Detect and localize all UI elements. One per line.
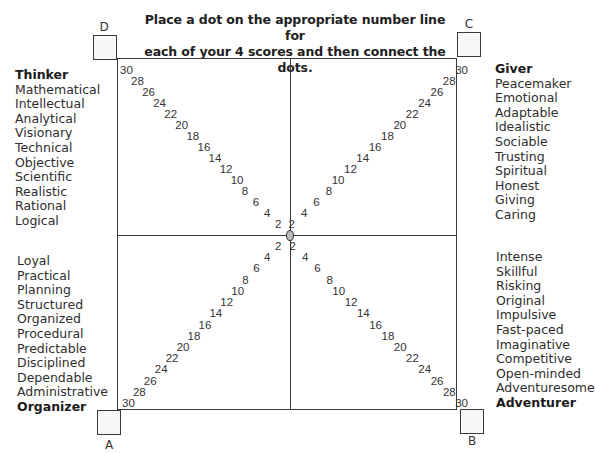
scale-mark-2[interactable]: 2 [275,218,281,230]
organizer-word: Dependable [17,371,108,386]
scale-mark-10[interactable]: 10 [332,285,345,297]
adventurer-word-list: Intense Skillful Risking Original Impuls… [496,250,595,411]
scale-mark-16[interactable]: 16 [199,319,212,331]
adventurer-heading: Adventurer [496,396,595,411]
organizer-word: Planning [17,283,108,298]
scale-mark-12[interactable]: 12 [220,296,233,308]
scale-mark-10[interactable]: 10 [231,174,244,186]
instructions-line-1: Place a dot on the appropriate number li… [140,12,450,44]
scale-mark-4[interactable]: 4 [302,251,308,263]
scale-mark-6[interactable]: 6 [313,196,319,208]
giver-word: Adaptable [495,106,571,121]
corner-box-d[interactable] [93,35,117,60]
scale-mark-14[interactable]: 14 [356,152,369,164]
scale-mark-30[interactable]: 30 [120,64,133,76]
organizer-word: Administrative [17,385,108,400]
scale-mark-18[interactable]: 18 [188,330,201,342]
scale-mark-24[interactable]: 24 [153,97,166,109]
scale-mark-8[interactable]: 8 [326,185,332,197]
adventurer-word: Competitive [496,352,595,367]
corner-box-b[interactable] [460,409,484,434]
scale-mark-28[interactable]: 28 [133,386,146,398]
scale-mark-2[interactable]: 2 [289,218,295,230]
scale-mark-22[interactable]: 22 [406,108,419,120]
scale-mark-16[interactable]: 16 [198,141,211,153]
scale-mark-4[interactable]: 4 [301,207,307,219]
organizer-word: Loyal [17,254,108,269]
scale-mark-6[interactable]: 6 [314,262,320,274]
thinker-word: Technical [15,141,100,156]
adventurer-word: Skillful [496,265,595,280]
corner-label-d: D [97,20,111,34]
adventurer-word: Original [496,294,595,309]
scale-mark-28[interactable]: 28 [443,75,456,87]
adventurer-word: Adventuresome [496,381,595,396]
scale-mark-14[interactable]: 14 [209,307,222,319]
thinker-word-list: Thinker Mathematical Intellectual Analyt… [15,68,100,229]
corner-box-c[interactable] [457,32,481,57]
scale-mark-26[interactable]: 26 [144,375,157,387]
scale-mark-6[interactable]: 6 [253,262,259,274]
scale-mark-14[interactable]: 14 [209,152,222,164]
scale-mark-2[interactable]: 2 [290,240,296,252]
scale-mark-12[interactable]: 12 [220,163,233,175]
scale-mark-10[interactable]: 10 [332,174,345,186]
scale-mark-16[interactable]: 16 [369,319,382,331]
thinker-word: Intellectual [15,97,100,112]
scale-mark-24[interactable]: 24 [418,363,431,375]
scale-mark-8[interactable]: 8 [242,185,248,197]
scale-mark-14[interactable]: 14 [357,307,370,319]
giver-word: Trusting [495,150,571,165]
scale-mark-12[interactable]: 12 [345,296,358,308]
scale-mark-24[interactable]: 24 [155,363,168,375]
organizer-heading: Organizer [17,400,108,415]
scale-mark-20[interactable]: 20 [394,341,407,353]
giver-word: Sociable [495,135,571,150]
scale-mark-18[interactable]: 18 [381,130,394,142]
thinker-word: Logical [15,214,100,229]
giver-word: Idealistic [495,120,571,135]
scale-mark-8[interactable]: 8 [326,274,332,286]
thinker-word: Mathematical [15,83,100,98]
scale-mark-12[interactable]: 12 [344,163,357,175]
scale-mark-22[interactable]: 22 [166,352,179,364]
scale-mark-22[interactable]: 22 [164,108,177,120]
giver-word: Honest [495,179,571,194]
scale-mark-20[interactable]: 20 [175,119,188,131]
scale-mark-2[interactable]: 2 [275,240,281,252]
organizer-word: Organized [17,312,108,327]
corner-label-b: B [465,434,479,448]
scale-mark-24[interactable]: 24 [418,97,431,109]
scale-mark-20[interactable]: 20 [177,341,190,353]
giver-word: Peacemaker [495,77,571,92]
organizer-word-list: Loyal Practical Planning Structured Orga… [17,254,108,415]
organizer-word: Structured [17,298,108,313]
adventurer-word: Open-minded [496,367,595,382]
scale-mark-26[interactable]: 26 [430,86,443,98]
thinker-word: Scientific [15,170,100,185]
scale-mark-26[interactable]: 26 [142,86,155,98]
adventurer-word: Risking [496,279,595,294]
giver-word: Spiritual [495,164,571,179]
scale-mark-30[interactable]: 30 [122,397,135,409]
scale-mark-20[interactable]: 20 [393,119,406,131]
scale-mark-16[interactable]: 16 [369,141,382,153]
scale-mark-18[interactable]: 18 [381,330,394,342]
scale-mark-6[interactable]: 6 [253,196,259,208]
scale-mark-18[interactable]: 18 [186,130,199,142]
scale-mark-28[interactable]: 28 [443,386,456,398]
scale-mark-10[interactable]: 10 [231,285,244,297]
giver-word: Caring [495,208,571,223]
giver-word: Giving [495,193,571,208]
scale-mark-30[interactable]: 30 [455,64,468,76]
scale-mark-4[interactable]: 4 [264,207,270,219]
scale-mark-26[interactable]: 26 [431,375,444,387]
adventurer-word: Intense [496,250,595,265]
scale-mark-8[interactable]: 8 [242,274,248,286]
adventurer-word: Imaginative [496,338,595,353]
scale-mark-30[interactable]: 30 [455,397,468,409]
scale-mark-28[interactable]: 28 [131,75,144,87]
organizer-word: Predictable [17,342,108,357]
scale-mark-22[interactable]: 22 [406,352,419,364]
scale-mark-4[interactable]: 4 [264,251,270,263]
